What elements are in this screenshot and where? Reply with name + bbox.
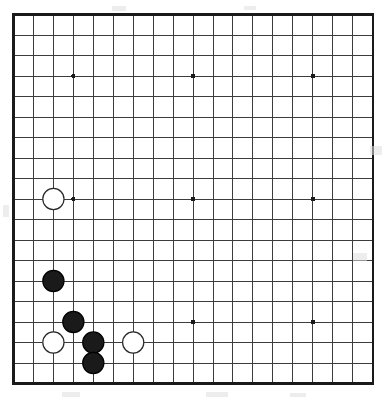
star-point (191, 74, 196, 79)
go-board-canvas[interactable] (0, 0, 387, 400)
star-point (310, 320, 315, 325)
black-stone-e18[interactable] (83, 352, 104, 373)
black-stone-c14[interactable] (43, 270, 64, 291)
star-point (71, 197, 76, 202)
star-point (310, 197, 315, 202)
go-board-diagram (0, 0, 387, 400)
white-stone-c10[interactable] (43, 188, 64, 209)
black-stone-d16[interactable] (63, 311, 84, 332)
star-point (310, 74, 315, 79)
star-point (191, 320, 196, 325)
star-point (191, 197, 196, 202)
white-stone-g17[interactable] (123, 332, 144, 353)
white-stone-c17[interactable] (43, 332, 64, 353)
black-stone-e17[interactable] (83, 332, 104, 353)
star-point (71, 74, 76, 79)
